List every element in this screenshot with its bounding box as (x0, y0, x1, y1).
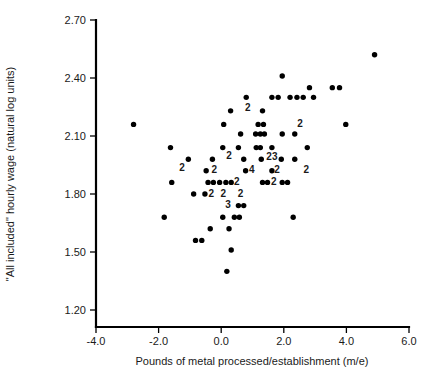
data-point (232, 215, 237, 220)
data-point (311, 95, 316, 100)
y-tick-label: 2.40 (65, 72, 86, 84)
data-point (330, 85, 335, 90)
data-point (244, 95, 249, 100)
x-tick-label: -4.0 (87, 335, 106, 347)
data-point (307, 85, 312, 90)
data-point (280, 73, 285, 78)
data-point (292, 157, 297, 162)
data-point (223, 180, 228, 185)
overlap-count-label: 2 (221, 188, 227, 199)
data-point (337, 85, 342, 90)
data-point (211, 180, 216, 185)
x-axis-title: Pounds of metal processed/establishment … (136, 355, 369, 367)
data-point (226, 226, 231, 231)
y-axis-title: "All included" hourly wage (natural log … (4, 67, 16, 281)
y-tick-label: 2.10 (65, 130, 86, 142)
data-point (202, 191, 207, 196)
data-point (258, 145, 263, 150)
data-point (260, 108, 265, 113)
x-tick-label: 4.0 (339, 335, 354, 347)
data-point (199, 238, 204, 243)
data-point (203, 168, 208, 173)
x-tick-label: -2.0 (149, 335, 168, 347)
overlap-count-label: 2 (274, 164, 280, 175)
overlap-count-label: 4 (249, 164, 255, 175)
data-point (168, 145, 173, 150)
overlap-count-label: 2 (271, 176, 277, 187)
data-point (208, 226, 213, 231)
x-tick-label: 6.0 (401, 335, 416, 347)
data-point (269, 95, 274, 100)
overlap-count-label: 3 (225, 199, 231, 210)
data-point (210, 157, 215, 162)
scatter-plot-figure: 2.702.402.101.801.501.20 -4.0-2.00.02.04… (0, 0, 436, 378)
data-point (262, 131, 267, 136)
data-point (228, 108, 233, 113)
data-points-layer (131, 52, 377, 274)
data-point (205, 180, 210, 185)
y-tick-label: 1.50 (65, 246, 86, 258)
data-point (220, 215, 225, 220)
data-point (279, 157, 284, 162)
overlap-count-label: 2 (238, 188, 244, 199)
data-point (275, 95, 280, 100)
data-point (294, 95, 299, 100)
data-point (261, 122, 266, 127)
data-point (253, 131, 258, 136)
data-point (238, 131, 243, 136)
data-point (241, 203, 246, 208)
data-point (301, 95, 306, 100)
overlap-count-label: 2 (179, 162, 185, 173)
data-point (285, 180, 290, 185)
data-point (193, 238, 198, 243)
overlap-count-labels-layer: 2222322422222223 (179, 102, 309, 210)
overlap-count-label: 2 (234, 176, 240, 187)
x-tick-label: 2.0 (276, 335, 291, 347)
data-point (221, 122, 226, 127)
data-point (280, 131, 285, 136)
data-point (290, 215, 295, 220)
data-point (305, 145, 310, 150)
overlap-count-label: 2 (297, 118, 303, 129)
data-point (236, 145, 241, 150)
data-point (259, 157, 264, 162)
overlap-count-label: 2 (245, 102, 251, 113)
data-point (280, 180, 285, 185)
overlap-count-label: 23 (266, 151, 278, 162)
overlap-count-label: 2 (212, 164, 218, 175)
data-point (131, 122, 136, 127)
data-point (169, 180, 174, 185)
data-point (237, 215, 242, 220)
data-point (241, 157, 246, 162)
data-point (162, 215, 167, 220)
data-point (269, 145, 274, 150)
data-point (265, 180, 270, 185)
y-axis-ticks: 2.702.402.101.801.501.20 (65, 14, 96, 316)
data-point (243, 168, 248, 173)
data-point (217, 180, 222, 185)
overlap-count-label: 2 (304, 164, 310, 175)
data-point (186, 157, 191, 162)
data-point (236, 203, 241, 208)
overlap-count-label: 2 (226, 150, 232, 161)
y-tick-label: 1.80 (65, 188, 86, 200)
data-point (287, 95, 292, 100)
x-tick-label: 0.0 (214, 335, 229, 347)
data-point (372, 52, 377, 57)
data-point (224, 269, 229, 274)
data-point (343, 122, 348, 127)
y-tick-label: 1.20 (65, 304, 86, 316)
data-point (255, 122, 260, 127)
plot-canvas: 2.702.402.101.801.501.20 -4.0-2.00.02.04… (0, 0, 436, 378)
x-axis-ticks: -4.0-2.00.02.04.06.0 (87, 327, 417, 347)
data-point (220, 145, 225, 150)
data-point (292, 131, 297, 136)
data-point (229, 247, 234, 252)
y-tick-label: 2.70 (65, 14, 86, 26)
overlap-count-label: 2 (208, 188, 214, 199)
data-point (191, 191, 196, 196)
data-point (260, 180, 265, 185)
